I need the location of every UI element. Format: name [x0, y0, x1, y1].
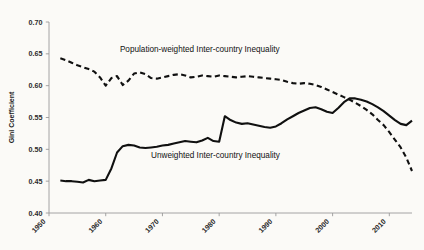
y-tick-label: 0.65 — [29, 49, 43, 58]
y-tick-label: 0.50 — [29, 145, 43, 154]
annotation-unweighted: Unweighted Inter-country Inequality — [151, 151, 281, 160]
chart-background — [0, 0, 424, 250]
inequality-line-chart: 0.400.450.500.550.600.650.70195019601970… — [0, 0, 424, 250]
annotation-population-weighted: Population-weighted Inter-country Inequa… — [120, 45, 281, 54]
y-tick-label: 0.40 — [29, 209, 43, 218]
y-tick-label: 0.70 — [29, 18, 43, 27]
y-axis-title: Gini Coefficient — [8, 91, 15, 143]
y-tick-label: 0.60 — [29, 81, 43, 90]
y-tick-label: 0.55 — [29, 113, 43, 122]
y-tick-label: 0.45 — [29, 177, 43, 186]
